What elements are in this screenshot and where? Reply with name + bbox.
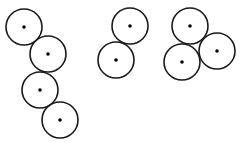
center-dot [180,60,184,64]
circle-group-pair [98,8,148,78]
center-dot [22,25,26,29]
circle-group-triangle-of-three [164,8,235,80]
center-dot [46,52,50,56]
circle-group-chain-of-four [6,9,78,138]
center-dot [215,49,219,53]
center-dot [128,24,132,28]
center-dot [38,88,42,92]
center-dot [114,58,118,62]
center-dot [188,24,192,28]
center-dot [58,118,62,122]
circle-diagram [0,0,245,147]
